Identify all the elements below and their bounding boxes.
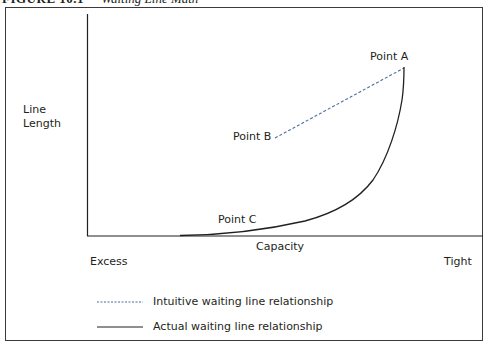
legend-item-intuitive: Intuitive waiting line relationship: [153, 295, 333, 308]
y-axis-label: Line Length: [23, 103, 61, 131]
actual-curve: [180, 67, 404, 236]
x-axis-right-label: Tight: [444, 255, 472, 268]
point-c-label: Point C: [218, 213, 257, 226]
legend-item-actual: Actual waiting line relationship: [153, 320, 323, 333]
intuitive-line: [275, 68, 404, 138]
x-axis-label: Capacity: [256, 240, 304, 253]
point-b-label: Point B: [233, 130, 271, 143]
y-axis-label-line1: Line: [23, 103, 61, 117]
y-axis-label-line2: Length: [23, 117, 61, 131]
x-axis-left-label: Excess: [90, 255, 128, 268]
point-a-label: Point A: [370, 50, 408, 63]
